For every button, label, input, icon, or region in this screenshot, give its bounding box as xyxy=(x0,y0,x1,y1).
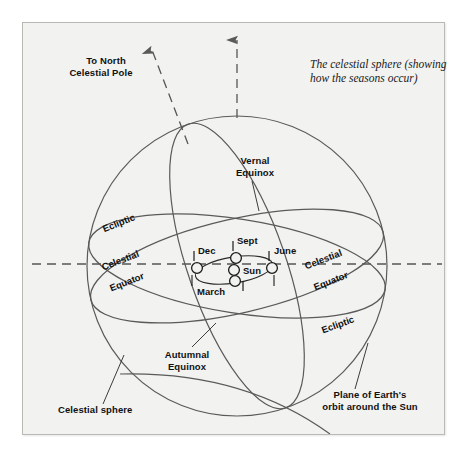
figure-caption-line1: The celestial sphere (showing xyxy=(310,57,447,72)
orbit-label-march: March xyxy=(197,286,225,297)
orbit-position-march xyxy=(230,276,241,287)
autumnal-equinox-label-line1: Autumnal xyxy=(141,349,233,361)
orbit-plane-label-line2: orbit around the Sun xyxy=(300,401,440,413)
diagram-stage: The celestial sphere (showing how the se… xyxy=(0,0,467,459)
orbit-plane-label-line1: Plane of Earth's xyxy=(300,389,440,401)
north-celestial-pole-label-line1: To North xyxy=(47,55,165,67)
orbit-label-dec: Dec xyxy=(198,245,215,256)
north-celestial-pole-label-line2: Celestial Pole xyxy=(37,67,165,79)
orbit-position-sept xyxy=(231,253,242,264)
vernal-equinox-label-line1: Vernal xyxy=(215,155,295,167)
celestial-sphere-leader xyxy=(103,355,124,404)
sun-symbol xyxy=(229,265,240,276)
orbit-label-june: June xyxy=(274,245,296,256)
autumnal-equinox-label-line2: Equinox xyxy=(141,361,233,373)
orbit-label-sept: Sept xyxy=(237,235,258,246)
figure-page: The celestial sphere (showing how the se… xyxy=(0,0,467,459)
orbit-plane-edge-line xyxy=(120,374,330,434)
orbit-label-sun: Sun xyxy=(243,265,261,276)
figure-caption-line2: how the seasons occur) xyxy=(310,71,418,86)
celestial-sphere-label: Celestial sphere xyxy=(58,404,132,416)
orbit-position-june xyxy=(267,263,278,274)
orbit-position-dec xyxy=(192,263,203,274)
vernal-equinox-label-line2: Equinox xyxy=(215,167,295,179)
